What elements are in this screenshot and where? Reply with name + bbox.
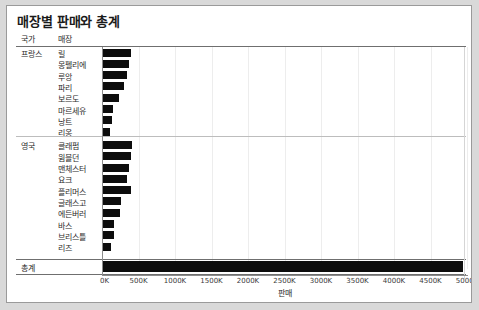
- x-axis-tick-label: 3500K: [346, 277, 368, 285]
- y-axis-line: [102, 47, 103, 276]
- x-axis-title: 판매: [102, 287, 468, 298]
- bar[interactable]: [102, 128, 110, 136]
- total-divider-top: [16, 259, 466, 260]
- table-row[interactable]: 바스: [16, 219, 466, 230]
- table-row[interactable]: 윔블던: [16, 151, 466, 162]
- bar[interactable]: [102, 116, 112, 124]
- x-axis-tick-label: 500K: [130, 277, 148, 285]
- table-row[interactable]: 몽펠리에: [16, 58, 466, 69]
- x-axis-tick-label: 4500K: [419, 277, 441, 285]
- bar[interactable]: [102, 220, 114, 228]
- page-title: 매장별 판매와 총계: [17, 11, 120, 30]
- total-label: 총계: [21, 262, 35, 273]
- bar[interactable]: [102, 186, 131, 194]
- table-row[interactable]: 루앙: [16, 70, 466, 81]
- table-row[interactable]: 리즈: [16, 241, 466, 252]
- bar[interactable]: [102, 60, 129, 68]
- bar[interactable]: [102, 49, 131, 57]
- table-row[interactable]: 보르도: [16, 92, 466, 103]
- column-header-row: 국가 매장: [16, 33, 466, 46]
- x-axis-tick-label: 5000K: [456, 277, 472, 285]
- table-row[interactable]: 프랑스릴: [16, 47, 466, 58]
- bar[interactable]: [102, 94, 119, 102]
- total-row: 총계: [16, 259, 466, 275]
- chart-plot-area: 프랑스릴몽펠리에루앙파리보르도마르세유낭트리옹영국클래펌윔블던맨체스터요크플리머…: [16, 47, 466, 269]
- row-label-store: 리즈: [58, 242, 72, 253]
- x-axis-line: [102, 275, 468, 276]
- right-edge-rule: [464, 47, 465, 279]
- x-axis-tick-label: 1500K: [200, 277, 222, 285]
- table-row[interactable]: 플리머스: [16, 185, 466, 196]
- x-axis-tick-label: 3000K: [310, 277, 332, 285]
- gridline: [467, 47, 468, 269]
- table-row[interactable]: 낭트: [16, 115, 466, 126]
- table-row[interactable]: 글래스고: [16, 196, 466, 207]
- bar[interactable]: [102, 197, 121, 205]
- x-axis-tick-label: 2500K: [273, 277, 295, 285]
- bar[interactable]: [102, 209, 120, 217]
- table-row[interactable]: 요크: [16, 173, 466, 184]
- x-axis-tick-label: 0K: [100, 277, 109, 285]
- bar[interactable]: [102, 243, 111, 251]
- table-row[interactable]: 에든버러: [16, 207, 466, 218]
- total-bar: [102, 261, 463, 272]
- table-row[interactable]: 마르세유: [16, 104, 466, 115]
- table-row[interactable]: 맨체스터: [16, 162, 466, 173]
- bar[interactable]: [102, 152, 131, 160]
- x-axis-tick-label: 4000K: [383, 277, 405, 285]
- column-header-store: 매장: [58, 33, 72, 44]
- table-row[interactable]: 영국클래펌: [16, 139, 466, 150]
- bar[interactable]: [102, 231, 114, 239]
- table-row[interactable]: 브리스틀: [16, 230, 466, 241]
- x-axis-tick-label: 2000K: [237, 277, 259, 285]
- group-divider: [16, 136, 466, 137]
- column-header-country: 국가: [21, 33, 35, 44]
- bar[interactable]: [102, 105, 113, 113]
- bar[interactable]: [102, 141, 132, 149]
- bar[interactable]: [102, 175, 127, 183]
- bar[interactable]: [102, 164, 129, 172]
- x-axis: 0K500K1000K1500K2000K2500K3000K3500K4000…: [16, 275, 466, 303]
- bar[interactable]: [102, 71, 127, 79]
- table-row[interactable]: 파리: [16, 81, 466, 92]
- bar[interactable]: [102, 82, 124, 90]
- x-axis-tick-label: 1000K: [164, 277, 186, 285]
- visualization-frame: 매장별 판매와 총계 국가 매장 프랑스릴몽펠리에루앙파리보르도마르세유낭트리옹…: [6, 5, 472, 303]
